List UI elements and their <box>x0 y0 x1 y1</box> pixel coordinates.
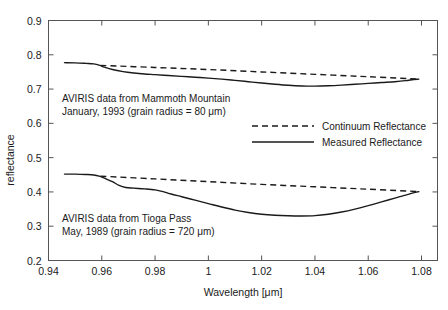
x-axis-title: Wavelength [μm] <box>204 286 283 298</box>
y-axis-title: reflectance <box>4 134 16 186</box>
legend-label-continuum: Continuum Reflectance <box>322 121 426 132</box>
x-tick-label: 1.08 <box>411 265 432 277</box>
y-tick-label: 0.2 <box>27 255 42 267</box>
annotation-tioga-line1: AVIRIS data from Tioga Pass <box>62 213 191 224</box>
y-tick-label: 0.8 <box>27 49 42 61</box>
chart-figure: 0.940.960.9811.021.041.061.08 0.20.30.40… <box>0 0 448 310</box>
y-tick-label: 0.5 <box>27 152 42 164</box>
y-tick-label: 0.4 <box>27 186 42 198</box>
y-tick-label: 0.6 <box>27 117 42 129</box>
x-tick-label: 1.06 <box>358 265 379 277</box>
x-tick-label: 1.04 <box>305 265 326 277</box>
reflectance-line-chart: 0.940.960.9811.021.041.061.08 0.20.30.40… <box>0 0 448 310</box>
x-tick-label: 0.96 <box>92 265 113 277</box>
annotation-mammoth-line1: AVIRIS data from Mammoth Mountain <box>62 93 230 104</box>
y-tick-label: 0.9 <box>27 15 42 27</box>
x-tick-label: 0.98 <box>145 265 166 277</box>
legend-label-measured: Measured Reflectance <box>322 137 422 148</box>
annotation-tioga-line2: May, 1989 (grain radius = 720 μm) <box>62 226 215 237</box>
chart-background <box>0 0 448 310</box>
y-tick-label: 0.3 <box>27 220 42 232</box>
x-tick-label: 1.02 <box>251 265 272 277</box>
annotation-mammoth-line2: January, 1993 (grain radius = 80 μm) <box>62 106 226 117</box>
y-tick-label: 0.7 <box>27 83 42 95</box>
x-tick-label: 1 <box>205 265 211 277</box>
